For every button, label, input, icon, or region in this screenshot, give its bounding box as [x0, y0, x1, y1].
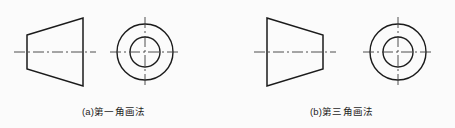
- panel-b-side-view: [363, 17, 433, 87]
- panel-a-group: [14, 17, 180, 87]
- panel-b-front-view: [254, 18, 336, 86]
- caption-first-angle: (a)第一角画法: [0, 107, 227, 117]
- panel-a-side-view: [110, 17, 180, 87]
- panel-b-group: [254, 17, 433, 87]
- caption-third-angle: (b)第三角画法: [228, 107, 455, 117]
- projection-method-figure: (a)第一角画法 (b)第三角画法: [0, 0, 455, 128]
- panel-a-front-view: [14, 18, 96, 86]
